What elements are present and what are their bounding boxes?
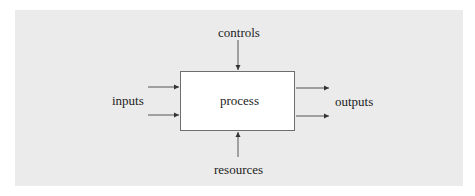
process-label: process [220,94,259,107]
outputs-label: outputs [335,95,373,108]
input-arrows [148,87,179,115]
output-arrows [296,88,329,116]
controls-label: controls [218,26,260,39]
resources-label: resources [214,163,263,176]
inputs-label: inputs [112,94,144,107]
